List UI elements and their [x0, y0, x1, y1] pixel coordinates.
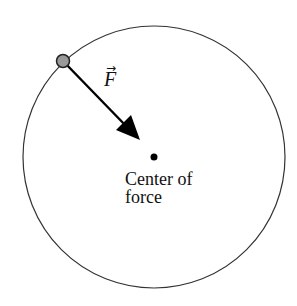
orbit-diagram [0, 0, 297, 306]
center-label-line1: Center of [125, 170, 192, 188]
center-of-force-label: Center of force [125, 170, 192, 206]
particle [57, 55, 70, 68]
force-arrow-shaft [63, 61, 128, 128]
diagram-canvas: → F Center of force [0, 0, 297, 306]
center-of-force-dot [151, 154, 158, 161]
force-label: F [104, 68, 116, 91]
center-label-line2: force [125, 188, 192, 206]
